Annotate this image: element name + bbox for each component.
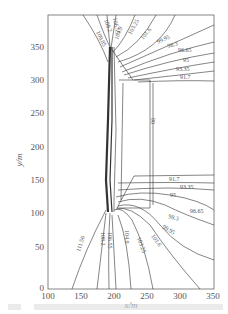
svg-text:98.3: 98.3 (167, 40, 179, 49)
svg-text:108.2: 108.2 (100, 232, 106, 246)
contour-labels-bottom: 111.56 108.2 106.55 104.9 103.25 101.6 9… (75, 176, 203, 254)
contour-chart: 350 300 250 200 150 100 50 0 y/m 100 150… (0, 0, 228, 314)
plot-frame (48, 15, 214, 289)
svg-text:100: 100 (31, 208, 45, 218)
svg-text:150: 150 (74, 291, 88, 301)
svg-text:200: 200 (31, 142, 45, 152)
svg-text:99.95: 99.95 (162, 224, 177, 236)
svg-text:350: 350 (31, 42, 45, 52)
svg-text:96.65: 96.65 (190, 208, 204, 214)
svg-text:250: 250 (140, 291, 154, 301)
svg-text:103.25: 103.25 (136, 236, 147, 254)
y-axis: 350 300 250 200 150 100 50 0 y/m (14, 42, 45, 293)
svg-text:106.55: 106.55 (107, 232, 113, 249)
svg-text:95: 95 (183, 57, 189, 63)
svg-text:250: 250 (31, 108, 45, 118)
figure-caption (8, 304, 223, 310)
svg-text:98.3: 98.3 (168, 213, 180, 222)
svg-text:104.9: 104.9 (124, 230, 130, 244)
svg-text:150: 150 (31, 175, 45, 185)
svg-text:93.35: 93.35 (176, 66, 190, 72)
svg-text:350: 350 (206, 291, 220, 301)
svg-text:100: 100 (41, 291, 55, 301)
svg-text:91.7: 91.7 (169, 176, 180, 182)
svg-text:200: 200 (107, 291, 121, 301)
svg-text:y/m: y/m (14, 153, 24, 167)
svg-text:300: 300 (31, 75, 45, 85)
svg-text:93.35: 93.35 (180, 184, 194, 190)
svg-text:101.6: 101.6 (150, 233, 163, 248)
svg-text:95: 95 (170, 192, 176, 198)
svg-text:108.2: 108.2 (103, 18, 113, 33)
svg-text:109.85: 109.85 (95, 30, 107, 47)
svg-text:300: 300 (173, 291, 187, 301)
contour-label-middle: 90 (150, 118, 156, 124)
svg-text:101.6: 101.6 (139, 26, 152, 40)
svg-text:96.65: 96.65 (178, 47, 192, 53)
svg-text:103.25: 103.25 (127, 18, 140, 35)
svg-text:50: 50 (35, 242, 45, 252)
svg-text:111.56: 111.56 (75, 235, 86, 252)
svg-text:91.7: 91.7 (180, 74, 191, 80)
